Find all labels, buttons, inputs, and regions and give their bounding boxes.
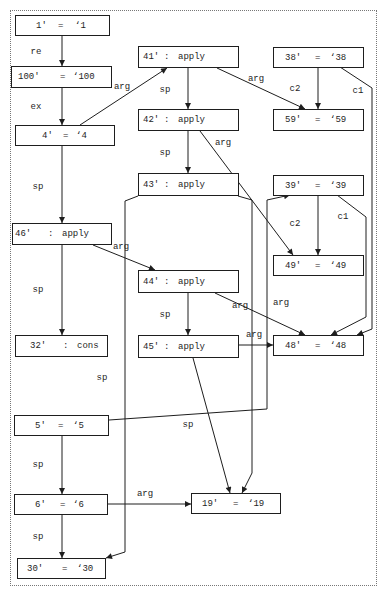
edge-label-arg: arg <box>113 242 129 252</box>
node-id: 42' <box>143 115 159 125</box>
node-op: = <box>233 499 238 509</box>
edge-label-c2: c2 <box>290 84 301 94</box>
node-id: 43' <box>143 180 159 190</box>
node-45: 45' : apply <box>138 335 239 358</box>
node-value: cons <box>77 341 99 351</box>
node-value: ‘48 <box>330 341 346 351</box>
node-value: apply <box>62 229 89 239</box>
edge-label-ex: ex <box>31 102 42 112</box>
node-id: 19' <box>202 499 218 509</box>
node-id: 39' <box>285 181 301 191</box>
edge-label-arg: arg <box>215 138 231 148</box>
node-id: 59' <box>285 115 301 125</box>
node-op: = <box>63 131 68 141</box>
node-44: 44' : apply <box>138 270 239 293</box>
node-value: ‘59 <box>330 115 346 125</box>
node-value: ‘19 <box>248 499 264 509</box>
edge-label-re: re <box>31 47 42 57</box>
node-id: 41' <box>143 52 159 62</box>
node-id: 44' <box>143 277 159 287</box>
node-op: = <box>60 500 65 510</box>
node-op: : <box>164 342 169 352</box>
node-id: 5' <box>35 421 46 431</box>
node-value: ‘100 <box>73 72 95 82</box>
node-id: 4' <box>42 131 53 141</box>
edge-label-sp: sp <box>33 460 44 470</box>
edge-label-arg: arg <box>273 298 289 308</box>
node-id: 30' <box>27 564 43 574</box>
node-id: 48' <box>285 341 301 351</box>
edge-label-sp: sp <box>33 182 44 192</box>
edge-label-sp: sp <box>33 532 44 542</box>
edge-label-arg: arg <box>248 74 264 84</box>
node-41: 41' : apply <box>138 46 239 68</box>
node-19: 19' = ‘19 <box>191 493 281 514</box>
node-38: 38' = ‘38 <box>273 47 364 68</box>
edge-label-sp: sp <box>160 148 171 158</box>
node-id: 45' <box>143 342 159 352</box>
node-59: 59' = ‘59 <box>273 109 364 131</box>
node-op: : <box>164 115 169 125</box>
node-value: apply <box>178 342 205 352</box>
node-op: : <box>164 180 169 190</box>
node-46: 46' : apply <box>12 223 112 245</box>
node-value: ‘49 <box>330 261 346 271</box>
node-op: = <box>62 564 67 574</box>
node-op: : <box>48 229 53 239</box>
edge-label-sp: sp <box>160 85 171 95</box>
node-value: ‘39 <box>330 181 346 191</box>
node-value: ‘5 <box>73 421 84 431</box>
node-30: 30' = ‘30 <box>17 558 106 579</box>
node-value: ‘38 <box>330 53 346 63</box>
edge-label-sp: sp <box>160 310 171 320</box>
edge-label-c1: c1 <box>338 212 349 222</box>
node-id: 49' <box>285 261 301 271</box>
node-value: ‘4 <box>76 131 87 141</box>
node-100: 100' = ‘100 <box>11 66 112 88</box>
node-43: 43' : apply <box>138 173 239 196</box>
node-39: 39' = ‘39 <box>273 175 364 196</box>
node-op: = <box>315 115 320 125</box>
node-value: apply <box>178 115 205 125</box>
node-op: = <box>60 72 65 82</box>
node-op: : <box>63 341 68 351</box>
node-32: 32' : cons <box>15 335 108 357</box>
node-id: 100' <box>18 72 40 82</box>
edge-label-sp: sp <box>97 373 108 383</box>
node-id: 38' <box>285 53 301 63</box>
edge-label-sp: sp <box>33 285 44 295</box>
node-op: = <box>315 181 320 191</box>
node-op: : <box>164 277 169 287</box>
node-49: 49' = ‘49 <box>273 255 364 276</box>
node-op: = <box>58 421 63 431</box>
node-value: ‘30 <box>77 564 93 574</box>
node-id: 32' <box>30 341 46 351</box>
node-4: 4' = ‘4 <box>15 125 115 146</box>
edge-label-arg: arg <box>246 330 262 340</box>
node-48: 48' = ‘48 <box>273 335 364 356</box>
node-5: 5' = ‘5 <box>14 415 109 436</box>
edge-45-19 <box>193 358 230 493</box>
node-value: apply <box>178 180 205 190</box>
node-op: = <box>315 261 320 271</box>
node-value: apply <box>178 52 205 62</box>
node-op: = <box>315 341 320 351</box>
node-id: 1' <box>36 21 47 31</box>
node-id: 6' <box>35 500 46 510</box>
node-6: 6' = ‘6 <box>14 494 108 515</box>
diagram-canvas: re ex arg sp arg c2 c1 sp arg sp c2 c1 a… <box>0 0 385 596</box>
edge-5-39 <box>109 195 290 420</box>
node-op: = <box>58 21 63 31</box>
edge-label-c1: c1 <box>353 86 364 96</box>
edge-label-arg: arg <box>114 82 130 92</box>
edge-label-c2: c2 <box>290 219 301 229</box>
edge-label-arg: arg <box>137 489 153 499</box>
node-op: : <box>164 52 169 62</box>
edge-44-48 <box>215 293 305 335</box>
node-op: = <box>315 53 320 63</box>
node-value: ‘6 <box>73 500 84 510</box>
edge-label-sp: sp <box>183 420 194 430</box>
node-value: ‘1 <box>75 21 86 31</box>
node-1: 1' = ‘1 <box>15 15 110 36</box>
node-42: 42' : apply <box>138 109 239 131</box>
